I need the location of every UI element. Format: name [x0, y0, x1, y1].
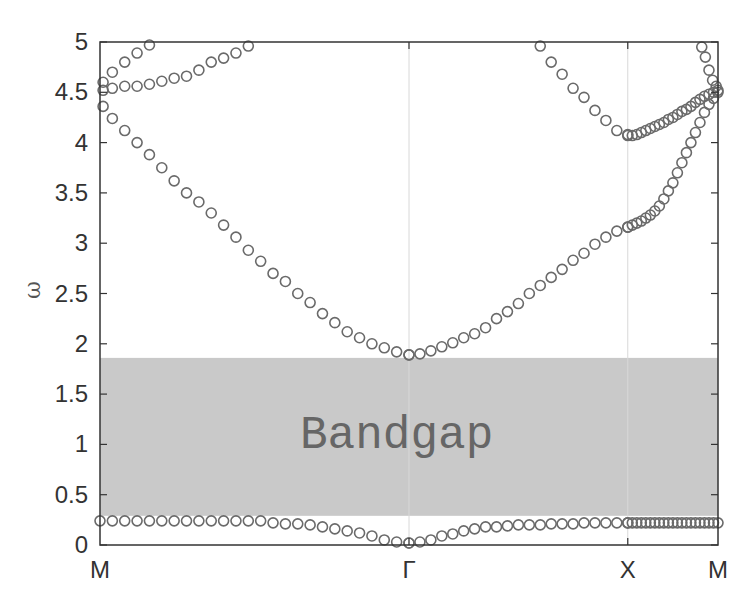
data-point — [557, 69, 567, 79]
data-point — [459, 526, 469, 536]
data-point — [206, 208, 216, 218]
data-point — [668, 178, 678, 188]
data-point — [686, 138, 696, 148]
data-point — [169, 176, 179, 186]
data-point — [612, 126, 622, 136]
data-point — [379, 343, 389, 353]
band-structure-chart: Bandgap 00.511.522.533.544.55 MΓXM ω — [0, 0, 755, 607]
data-point — [268, 268, 278, 278]
y-tick-label: 4.5 — [55, 78, 88, 105]
data-point — [182, 71, 192, 81]
data-point — [169, 516, 179, 526]
data-point — [107, 113, 117, 123]
data-point — [256, 256, 266, 266]
data-point — [243, 245, 253, 255]
data-point — [579, 92, 589, 102]
data-point — [601, 232, 611, 242]
data-point — [448, 338, 458, 348]
y-tick-label: 3.5 — [55, 179, 88, 206]
x-tick-label: X — [620, 556, 636, 583]
data-point — [231, 516, 241, 526]
data-point — [268, 518, 278, 528]
data-point — [256, 516, 266, 526]
data-point — [206, 516, 216, 526]
data-point — [317, 522, 327, 532]
data-point — [194, 516, 204, 526]
x-tick-label: M — [90, 556, 110, 583]
y-tick-label: 5 — [75, 28, 88, 55]
data-point — [120, 81, 130, 91]
data-point — [157, 516, 167, 526]
data-point — [470, 524, 480, 534]
data-point — [157, 76, 167, 86]
y-tick-label: 1 — [75, 430, 88, 457]
data-point — [513, 520, 523, 530]
y-tick-label: 3 — [75, 229, 88, 256]
data-point — [470, 329, 480, 339]
data-point — [243, 516, 253, 526]
data-point — [120, 57, 130, 67]
data-point — [579, 248, 589, 258]
data-point — [132, 81, 142, 91]
data-point — [342, 327, 352, 337]
data-point — [502, 521, 512, 531]
data-point — [293, 519, 303, 529]
data-point — [546, 272, 556, 282]
data-point — [568, 519, 578, 529]
data-point — [280, 276, 290, 286]
data-point — [568, 255, 578, 265]
data-point — [437, 342, 447, 352]
data-point — [459, 333, 469, 343]
data-point — [120, 126, 130, 136]
data-point — [481, 522, 491, 532]
data-point — [448, 529, 458, 539]
data-point — [426, 346, 436, 356]
data-point — [612, 226, 622, 236]
data-point — [107, 83, 117, 93]
data-point — [704, 65, 714, 75]
data-point — [481, 323, 491, 333]
data-point — [612, 518, 622, 528]
data-point — [379, 535, 389, 545]
data-point — [132, 516, 142, 526]
data-point — [492, 522, 502, 532]
data-point — [355, 333, 365, 343]
data-point — [317, 309, 327, 319]
data-point — [144, 516, 154, 526]
data-point — [535, 280, 545, 290]
data-point — [305, 520, 315, 530]
data-point — [355, 528, 365, 538]
data-point — [437, 531, 447, 541]
data-point — [132, 48, 142, 58]
data-point — [280, 519, 290, 529]
data-point — [557, 519, 567, 529]
data-point — [590, 239, 600, 249]
y-tick-label: 1.5 — [55, 380, 88, 407]
data-point — [144, 150, 154, 160]
y-tick-label: 2.5 — [55, 280, 88, 307]
data-point — [590, 105, 600, 115]
data-point — [700, 52, 710, 62]
data-point — [169, 73, 179, 83]
data-point — [219, 53, 229, 63]
data-point — [144, 79, 154, 89]
data-point — [546, 57, 556, 67]
data-point — [182, 188, 192, 198]
data-point — [524, 289, 534, 299]
data-point — [590, 518, 600, 528]
data-point — [120, 516, 130, 526]
x-tick-label: Γ — [402, 556, 415, 583]
y-axis-label: ω — [20, 281, 45, 299]
data-point — [697, 42, 707, 52]
data-point — [367, 531, 377, 541]
data-point — [502, 307, 512, 317]
data-point — [194, 65, 204, 75]
data-point — [231, 232, 241, 242]
data-point — [601, 518, 611, 528]
y-tick-label: 2 — [75, 330, 88, 357]
data-point — [342, 526, 352, 536]
data-point — [293, 289, 303, 299]
data-point — [546, 519, 556, 529]
y-tick-label: 4 — [75, 129, 88, 156]
data-point — [535, 520, 545, 530]
